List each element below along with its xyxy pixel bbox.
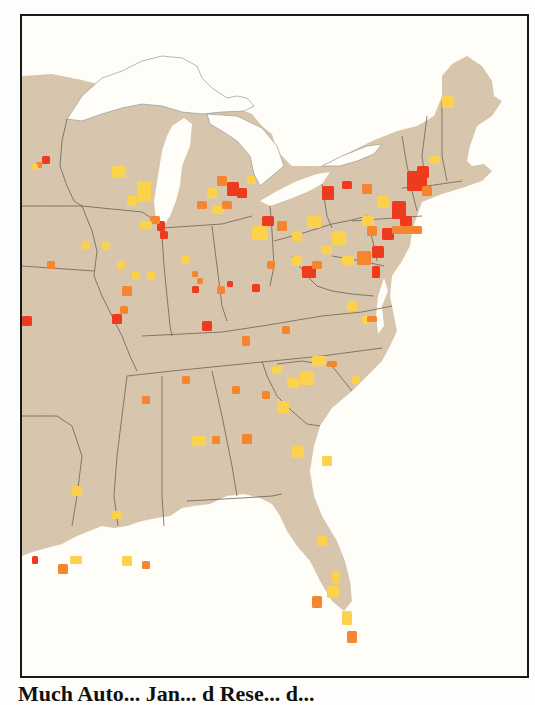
map-frame	[20, 14, 529, 678]
county-high	[347, 631, 357, 643]
eastern-us-map	[22, 16, 527, 676]
county-highest	[400, 216, 412, 226]
county-low	[192, 436, 206, 446]
county-high	[197, 278, 203, 284]
county-low	[277, 401, 289, 413]
county-high	[182, 376, 190, 384]
county-low	[112, 166, 126, 178]
county-highest	[252, 284, 260, 292]
county-highest	[160, 231, 168, 239]
county-low	[292, 446, 304, 458]
county-low	[247, 176, 255, 184]
county-low	[352, 376, 360, 384]
county-low	[147, 271, 155, 279]
county-high	[120, 306, 128, 314]
county-highest	[322, 186, 334, 200]
county-low	[332, 571, 340, 583]
county-low	[32, 164, 38, 170]
county-high	[142, 561, 150, 569]
county-high	[357, 251, 371, 265]
county-high	[58, 564, 68, 574]
county-low	[112, 511, 122, 519]
county-highest	[22, 316, 32, 326]
county-highest	[237, 188, 247, 198]
county-highest	[372, 246, 384, 258]
county-high	[217, 176, 227, 186]
county-highest	[42, 156, 50, 164]
county-low	[117, 261, 125, 269]
county-highest	[202, 321, 212, 331]
county-low	[82, 241, 90, 249]
county-highest	[227, 281, 233, 287]
county-low	[332, 231, 346, 245]
county-low	[182, 256, 190, 264]
county-low	[342, 256, 354, 266]
county-low	[327, 586, 339, 598]
county-high	[242, 336, 250, 346]
county-high	[367, 226, 377, 236]
county-low	[252, 226, 268, 240]
county-low	[322, 246, 332, 254]
county-highest	[372, 266, 380, 278]
county-high	[262, 391, 270, 399]
county-high	[197, 201, 207, 209]
county-low	[137, 181, 151, 201]
county-high	[212, 436, 220, 444]
county-low	[72, 486, 82, 496]
county-low	[122, 556, 132, 566]
county-high	[392, 226, 422, 234]
county-high	[122, 286, 132, 296]
county-high	[367, 316, 377, 322]
county-high	[327, 361, 337, 367]
county-high	[222, 201, 232, 209]
county-low	[377, 196, 389, 208]
county-highest	[112, 314, 122, 324]
county-high	[422, 186, 432, 196]
county-high	[277, 221, 287, 231]
county-high	[232, 386, 240, 394]
county-low	[292, 256, 302, 266]
county-high	[217, 286, 225, 294]
county-low	[132, 271, 140, 279]
county-high	[312, 261, 322, 269]
county-high	[47, 261, 55, 269]
county-low	[127, 196, 137, 206]
county-highest	[32, 556, 38, 564]
county-low	[442, 96, 454, 108]
county-low	[102, 242, 110, 250]
county-low	[70, 556, 82, 564]
county-low	[140, 221, 152, 229]
county-low	[292, 231, 302, 241]
county-high	[267, 261, 275, 269]
county-low	[322, 456, 332, 466]
map-caption: Much Auto... Jan... d Rese... d...	[18, 683, 314, 705]
county-high	[192, 271, 198, 277]
county-low	[312, 356, 326, 366]
county-low	[347, 301, 357, 311]
county-high	[242, 434, 252, 444]
county-low	[307, 216, 321, 228]
county-highest	[342, 181, 352, 189]
county-low	[430, 156, 440, 164]
county-highest	[262, 216, 274, 226]
county-high	[312, 596, 322, 608]
county-low	[300, 371, 314, 385]
county-low	[287, 378, 299, 388]
county-highest	[192, 286, 199, 293]
county-low	[207, 188, 217, 198]
county-highest	[417, 166, 429, 178]
county-low	[362, 216, 374, 226]
county-low	[272, 366, 282, 374]
county-high	[282, 326, 290, 334]
county-high	[142, 396, 150, 404]
county-low	[317, 536, 327, 546]
county-low	[342, 611, 352, 625]
county-high	[362, 184, 372, 194]
